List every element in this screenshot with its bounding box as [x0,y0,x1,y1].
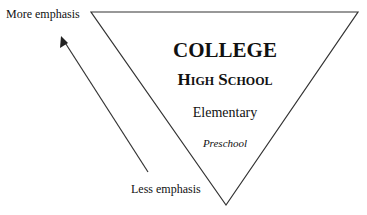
less-emphasis-label: Less emphasis [131,183,201,195]
level-college: COLLEGE [0,38,367,63]
level-elementary: Elementary [0,105,367,121]
level-preschool: Preschool [0,137,367,149]
level-high-school: High School [0,70,367,90]
more-emphasis-label: More emphasis [6,8,80,20]
